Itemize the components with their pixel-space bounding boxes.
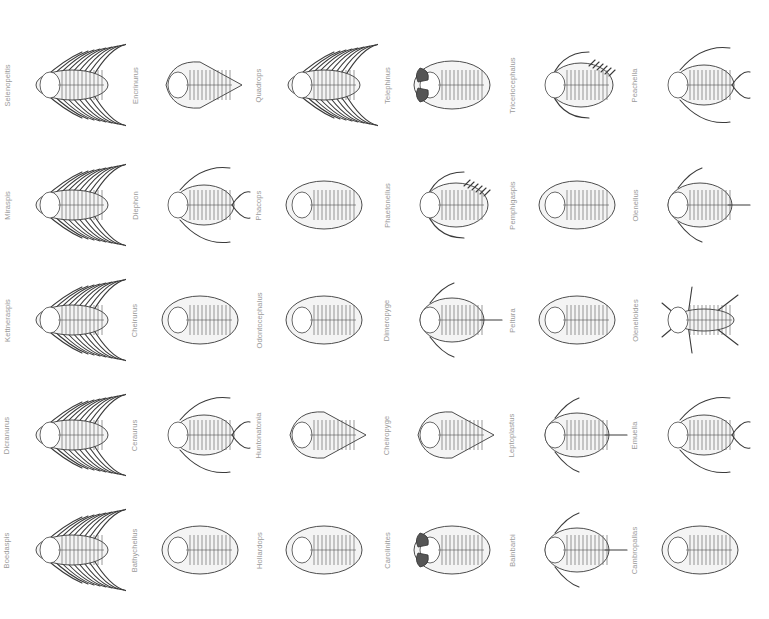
genus-label-text: Diephon — [131, 191, 140, 220]
trilobite-cell: Hollardops — [252, 495, 378, 605]
trilobite-cell: Selenopeltis — [0, 30, 126, 140]
genus-label: Selenopeltis — [0, 30, 14, 140]
trilobite-drawing-icon — [14, 265, 126, 375]
genus-label: Odontocephalus — [252, 265, 266, 375]
trilobite-drawing-icon — [266, 30, 378, 140]
genus-label-text: Telephinus — [383, 67, 392, 104]
trilobite-drawing-icon — [642, 380, 754, 490]
trilobite-cell: Pelturа — [505, 265, 631, 375]
genus-label-text: Boedaspis — [3, 532, 12, 568]
trilobite-cell: Ceraurus — [128, 380, 254, 490]
genus-label: Pemphigaspis — [505, 150, 519, 260]
trilobite-drawing-icon — [266, 265, 378, 375]
genus-label-text: Selenopeltis — [3, 64, 12, 106]
genus-label: Boedaspis — [0, 495, 14, 605]
genus-label: Huntonatonia — [252, 380, 266, 490]
trilobite-cell: Peachella — [628, 30, 754, 140]
genus-label-text: Dicranurus — [3, 416, 12, 453]
trilobite-drawing-icon — [394, 150, 506, 260]
genus-label: Phaetonellus — [380, 150, 394, 260]
genus-label: Olenellus — [628, 150, 642, 260]
trilobite-drawing-icon — [394, 30, 506, 140]
trilobite-cell: Leptoplastus — [505, 380, 631, 490]
genus-label-text: Ceraurus — [131, 419, 140, 451]
trilobite-cell: Olenelloides — [628, 265, 754, 375]
genus-label: Encrinurus — [128, 30, 142, 140]
genus-label: Emuella — [628, 380, 642, 490]
genus-label-text: Cheirurus — [131, 303, 140, 336]
trilobite-cell: Cheiropyge — [380, 380, 506, 490]
trilobite-cell: Dimeropyge — [380, 265, 506, 375]
genus-label: Kettneraspis — [0, 265, 14, 375]
genus-label-text: Pemphigaspis — [508, 181, 517, 229]
trilobite-drawing-icon — [519, 495, 631, 605]
trilobite-drawing-icon — [642, 265, 754, 375]
trilobite-drawing-icon — [642, 150, 754, 260]
genus-label-text: Phaetonellus — [383, 183, 392, 228]
trilobite-cell: Phacops — [252, 150, 378, 260]
trilobite-cell: Emuella — [628, 380, 754, 490]
trilobite-drawing-icon — [142, 30, 254, 140]
trilobite-cell: Cambropallas — [628, 495, 754, 605]
trilobite-cell: Phaetonellus — [380, 150, 506, 260]
trilobite-drawing-icon — [14, 495, 126, 605]
trilobite-cell: Bainbarbi — [505, 495, 631, 605]
genus-label: Ceraurus — [128, 380, 142, 490]
trilobite-drawing-icon — [142, 495, 254, 605]
genus-label-text: Leptoplastus — [508, 413, 517, 457]
genus-label: Leptoplastus — [505, 380, 519, 490]
genus-label-text: Dimeropyge — [383, 299, 392, 340]
genus-label: Carolinites — [380, 495, 394, 605]
trilobite-cell: Dicranurus — [0, 380, 126, 490]
genus-label-text: Olenelloides — [631, 299, 640, 341]
trilobite-drawing-icon — [642, 30, 754, 140]
trilobite-cell: Olenellus — [628, 150, 754, 260]
genus-label: Dicranurus — [0, 380, 14, 490]
genus-label-text: Peachella — [631, 68, 640, 102]
genus-label-text: Encrinurus — [131, 67, 140, 104]
trilobite-drawing-icon — [142, 150, 254, 260]
genus-label-text: Hollardops — [255, 532, 264, 569]
genus-label-text: Quadrops — [255, 68, 264, 102]
trilobite-cell: Telephinus — [380, 30, 506, 140]
genus-label: Triceriocephalus — [505, 30, 519, 140]
genus-label: Bathycheilus — [128, 495, 142, 605]
trilobite-cell: Encrinurus — [128, 30, 254, 140]
trilobite-cell: Miraspis — [0, 150, 126, 260]
genus-label: Dimeropyge — [380, 265, 394, 375]
genus-label-text: Emuella — [631, 421, 640, 449]
genus-label: Cheiropyge — [380, 380, 394, 490]
genus-label: Phacops — [252, 150, 266, 260]
trilobite-cell: Boedaspis — [0, 495, 126, 605]
trilobite-cell: Huntonatonia — [252, 380, 378, 490]
genus-label: Telephinus — [380, 30, 394, 140]
trilobite-cell: Bathycheilus — [128, 495, 254, 605]
trilobite-cell: Odontocephalus — [252, 265, 378, 375]
trilobite-cell: Kettneraspis — [0, 265, 126, 375]
genus-label-text: Kettneraspis — [3, 299, 12, 342]
genus-label-text: Odontocephalus — [255, 292, 264, 348]
genus-label: Miraspis — [0, 150, 14, 260]
trilobite-cell: Pemphigaspis — [505, 150, 631, 260]
genus-label: Peachella — [628, 30, 642, 140]
trilobite-cell: Quadrops — [252, 30, 378, 140]
genus-label: Olenelloides — [628, 265, 642, 375]
genus-label-text: Bathycheilus — [131, 528, 140, 572]
trilobite-drawing-icon — [519, 380, 631, 490]
trilobite-drawing-icon — [642, 495, 754, 605]
trilobite-drawing-icon — [14, 380, 126, 490]
trilobite-drawing-icon — [394, 380, 506, 490]
trilobite-drawing-icon — [519, 265, 631, 375]
trilobite-cell: Diephon — [128, 150, 254, 260]
trilobite-cell: Triceriocephalus — [505, 30, 631, 140]
genus-label-text: Huntonatonia — [255, 412, 264, 458]
trilobite-drawing-icon — [142, 380, 254, 490]
genus-label-text: Cheiropyge — [383, 415, 392, 454]
genus-label: Cheirurus — [128, 265, 142, 375]
trilobite-drawing-icon — [266, 380, 378, 490]
genus-label-text: Bainbarbi — [508, 534, 517, 567]
trilobite-cell: Carolinites — [380, 495, 506, 605]
genus-label-text: Pelturа — [508, 308, 517, 332]
genus-label-text: Phacops — [255, 190, 264, 220]
trilobite-drawing-icon — [266, 150, 378, 260]
